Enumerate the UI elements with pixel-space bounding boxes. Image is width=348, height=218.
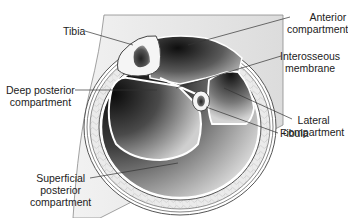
fibula-marrow — [197, 96, 205, 107]
label-anterior-line2: compartment — [287, 23, 348, 35]
label-deep-posterior-compartment: Deep posterior compartment — [6, 84, 75, 108]
label-lateral-line1: Lateral — [283, 114, 344, 126]
label-interosseous-line1: Interosseous — [280, 50, 340, 62]
label-interosseous-membrane: Interosseous membrane — [280, 50, 340, 74]
label-superficial-line2: posterior — [30, 184, 91, 196]
label-anterior-line1: Anterior — [287, 11, 348, 23]
label-deep-posterior-line1: Deep posterior — [6, 84, 75, 96]
label-tibia: Tibia — [63, 25, 85, 37]
label-interosseous-line2: membrane — [280, 62, 340, 74]
label-superficial-line3: compartment — [30, 196, 91, 208]
label-anterior-compartment: Anterior compartment — [287, 11, 348, 35]
label-fibula-text: Fibula — [280, 127, 309, 139]
label-tibia-text: Tibia — [63, 25, 85, 37]
label-superficial-posterior-compartment: Superficial posterior compartment — [30, 172, 91, 208]
label-superficial-line1: Superficial — [30, 172, 91, 184]
label-fibula: Fibula — [280, 127, 309, 139]
label-deep-posterior-line2: compartment — [6, 96, 75, 108]
